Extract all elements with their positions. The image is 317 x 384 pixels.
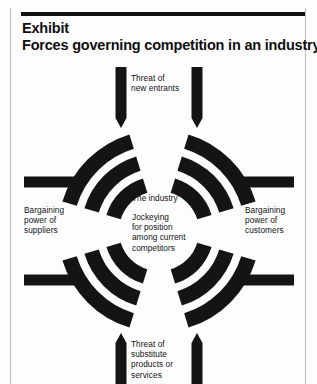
label-line: Threat of [131,339,205,349]
label-line: power of [245,215,307,225]
label-line: Bargaining [245,205,307,215]
label-bargaining-power-of-suppliers: Bargainingpower ofsuppliers [24,205,86,236]
label-line: substitute [131,349,205,359]
label-line: suppliers [24,225,86,235]
substitutes-arrow-left [116,333,127,384]
label-line: new entrants [131,83,205,93]
label-jockeying-for-position: Jockeyingfor positionamong currentcompet… [132,212,218,253]
label-threat-of-substitutes: Threat ofsubstituteproducts orservices [131,339,205,380]
five-forces-diagram [0,0,317,384]
customers-arrow-upper [232,177,294,188]
suppliers-arrow-lower [24,275,86,286]
customers-arrow-lower [232,275,294,286]
threat-new-entrants-arrow-left [116,67,127,128]
label-line: competitors [132,243,218,253]
label-line: services [131,370,205,380]
label-line: customers [245,225,307,235]
label-threat-of-new-entrants: Threat ofnew entrants [131,73,205,93]
label-bargaining-power-of-customers: Bargainingpower ofcustomers [245,205,307,236]
label-line: Bargaining [24,205,86,215]
suppliers-arrow-upper [24,177,86,188]
exhibit-page: Exhibit Forces governing competition in … [0,0,317,384]
label-line: Threat of [131,73,205,83]
label-line: Jockeying [132,212,218,222]
label-line: power of [24,215,86,225]
label-line: for position [132,222,218,232]
label-line: among current [132,232,218,242]
label-line: products or [131,359,205,369]
label-the-industry: The industry [132,193,218,203]
